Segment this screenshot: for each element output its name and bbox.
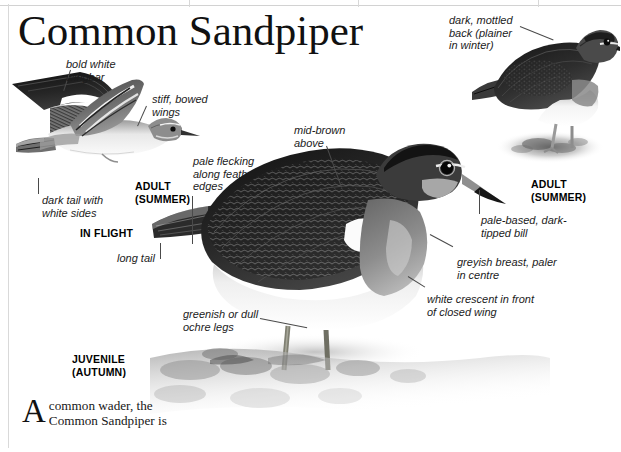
annotation-stiff-bowed-wings: stiff, bowed wings: [152, 93, 252, 118]
annotation-long-tail: long tail: [117, 252, 197, 265]
caption-adult-summer-standing: ADULT (SUMMER): [531, 178, 586, 204]
annotation-pale-based-bill: pale-based, dark- tipped bill: [481, 214, 601, 239]
annotation-greyish-breast: greyish breast, paler in centre: [457, 256, 597, 281]
annotation-pale-flecking: pale flecking along feather edges: [193, 155, 303, 193]
page-title: Common Sandpiper: [18, 6, 363, 55]
field-guide-page: Common Sandpiper: [0, 0, 621, 452]
page-left-rule: [8, 4, 9, 448]
leader-pale-flecking: [192, 196, 193, 244]
caption-juvenile: JUVENILE (AUTUMN): [72, 353, 126, 379]
leader-dark-tail-white-sides: [38, 178, 39, 194]
annotation-bold-white-wingbar: bold white wingbar: [66, 58, 166, 83]
leader-pale-based-bill: [479, 190, 480, 214]
intro-paragraph-text: common wader, the Common Sandpiper is: [49, 398, 167, 428]
intro-paragraph: Acommon wader, the Common Sandpiper is: [22, 398, 200, 429]
annotation-white-crescent: white crescent in front of closed wing: [427, 293, 587, 318]
drop-cap: A: [22, 398, 49, 424]
illustration-ground: [150, 340, 550, 448]
caption-in-flight: IN FLIGHT: [80, 227, 133, 240]
annotation-greenish-ochre-legs: greenish or dull ochre legs: [183, 308, 293, 333]
page-guide-tick-3: [538, 0, 539, 7]
annotation-dark-mottled-back: dark, mottled back (plainer in winter): [449, 14, 549, 52]
annotation-mid-brown-above: mid-brown above: [294, 124, 394, 149]
